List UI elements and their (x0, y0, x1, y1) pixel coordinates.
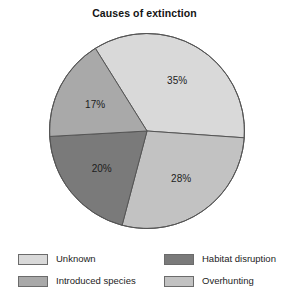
legend-item-introduced-species[interactable]: Introduced species (0, 270, 160, 292)
legend-swatch-overhunting (164, 276, 194, 287)
legend-swatch-habitat-disruption (164, 254, 194, 265)
legend-item-unknown[interactable]: Unknown (0, 248, 160, 270)
pie-slice-value-label: 17% (85, 99, 105, 110)
pie-slice-group (49, 34, 244, 229)
pie-slice-value-label: 20% (92, 163, 112, 174)
legend-label-unknown: Unknown (56, 254, 96, 264)
legend-label-habitat-disruption: Habitat disruption (202, 254, 276, 264)
legend-label-overhunting: Overhunting (202, 276, 254, 286)
pie-chart-svg: 35%28%20%17% (48, 32, 246, 230)
legend: Unknown Habitat disruption Introduced sp… (0, 248, 289, 302)
pie-chart: 35%28%20%17% (48, 32, 246, 230)
legend-item-habitat-disruption[interactable]: Habitat disruption (160, 248, 289, 270)
legend-swatch-unknown (18, 254, 48, 265)
legend-swatch-introduced-species (18, 276, 48, 287)
legend-item-overhunting[interactable]: Overhunting (160, 270, 289, 292)
chart-title: Causes of extinction (0, 7, 289, 19)
pie-slice-value-label: 28% (171, 173, 191, 184)
pie-slice-value-label: 35% (167, 75, 187, 86)
legend-label-introduced-species: Introduced species (56, 276, 136, 286)
